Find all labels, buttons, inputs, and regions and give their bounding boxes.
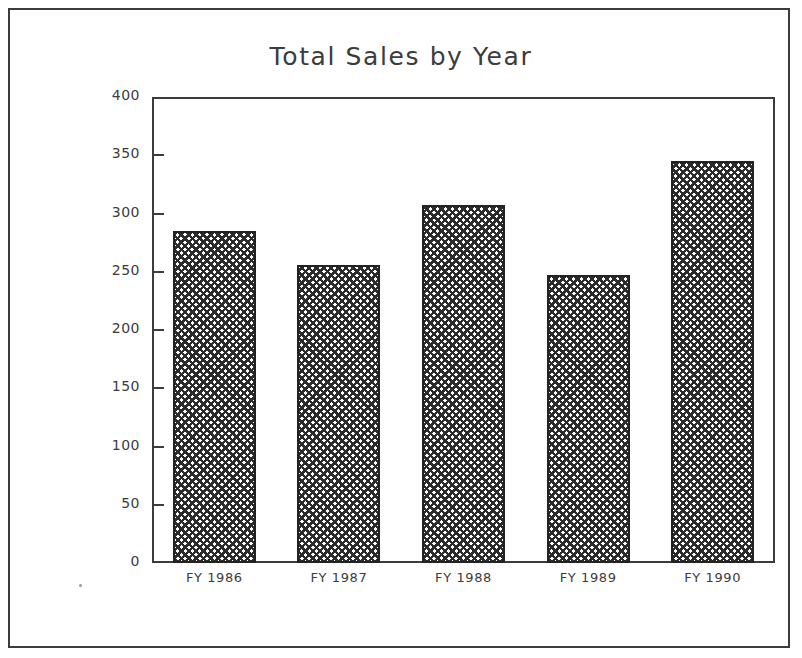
- x-tick-label: FY 1988: [404, 570, 524, 585]
- bars-layer: FY 1986FY 1987FY 1988FY 1989FY 1990: [0, 0, 802, 658]
- bar-fy-1989: [547, 275, 630, 563]
- x-tick-label: FY 1990: [653, 570, 773, 585]
- x-tick-label: FY 1989: [528, 570, 648, 585]
- bar-fy-1987: [297, 265, 380, 563]
- bar-fy-1988: [422, 205, 505, 563]
- bar-fy-1990: [671, 161, 754, 563]
- bar-fy-1986: [173, 231, 256, 563]
- x-tick-label: FY 1986: [154, 570, 274, 585]
- x-tick-label: FY 1987: [279, 570, 399, 585]
